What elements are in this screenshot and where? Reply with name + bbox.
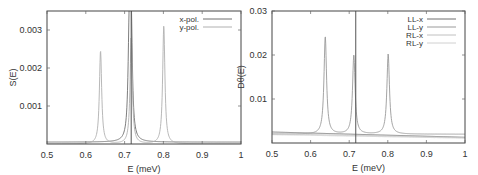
x-tick-label: 0.7 <box>343 149 356 159</box>
series-group <box>47 4 241 144</box>
x-tick-label: 0.9 <box>420 149 433 159</box>
x-tick-label: 0.5 <box>41 150 54 160</box>
plot-frame <box>47 11 241 144</box>
y-tick-label: 0.003 <box>19 25 42 35</box>
y-tick-label: 0.01 <box>249 94 267 104</box>
x-axis-label: E (meV) <box>127 164 160 174</box>
series-x-pol- <box>47 4 241 142</box>
x-axis-label: E (meV) <box>352 163 385 173</box>
y-tick-label: 0.03 <box>249 6 267 16</box>
x-tick-label: 0.9 <box>196 150 209 160</box>
x-tick-label: 1 <box>238 150 243 160</box>
x-tick-label: 0.5 <box>266 149 279 159</box>
y-tick-label: 0.02 <box>249 50 267 60</box>
y-axis-label: S(E) <box>8 68 18 86</box>
legend: x-pol.y-pol. <box>179 15 232 32</box>
right-panel: 0.50.60.70.80.910.010.020.03E (meV)Dθ(E)… <box>236 6 468 173</box>
series-y-pol- <box>47 26 241 144</box>
x-tick-label: 1 <box>462 149 467 159</box>
series-ll-y <box>272 37 465 134</box>
y-axis-label: Dθ(E) <box>236 65 246 89</box>
legend-label: y-pol. <box>179 23 199 32</box>
y-tick-label: 0.002 <box>19 63 42 73</box>
x-tick-label: 0.8 <box>157 150 170 160</box>
legend: LL-xLL-yRL-xRL-y <box>406 15 456 48</box>
figure: 0.50.60.70.80.910.0010.0020.003E (meV)S(… <box>0 0 478 175</box>
x-tick-label: 0.6 <box>304 149 317 159</box>
left-panel: 0.50.60.70.80.910.0010.0020.003E (meV)S(… <box>8 4 244 174</box>
series-group <box>272 37 465 138</box>
x-tick-label: 0.8 <box>382 149 395 159</box>
x-tick-label: 0.6 <box>80 150 93 160</box>
x-tick-label: 0.7 <box>118 150 131 160</box>
legend-label: RL-y <box>406 39 423 48</box>
plot-frame <box>272 11 465 143</box>
y-tick-label: 0.001 <box>19 101 42 111</box>
